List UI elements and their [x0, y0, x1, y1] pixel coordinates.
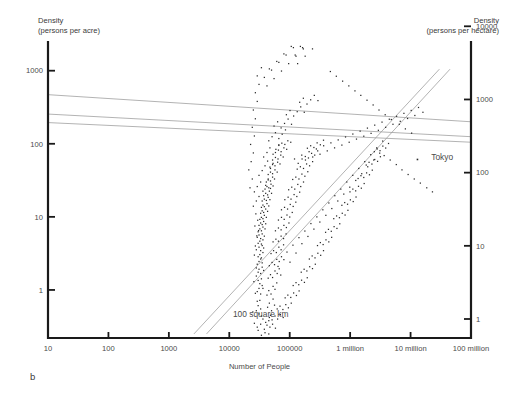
data-point — [266, 200, 267, 201]
data-point — [304, 230, 305, 231]
data-point — [259, 241, 260, 242]
data-point — [317, 100, 318, 101]
data-point — [270, 171, 271, 172]
data-point — [334, 195, 335, 196]
data-point — [414, 115, 415, 116]
data-point — [258, 261, 259, 262]
data-point — [262, 233, 263, 234]
data-point — [349, 142, 350, 143]
data-point — [283, 225, 284, 226]
data-point — [255, 213, 256, 214]
data-point — [278, 138, 279, 139]
data-point — [264, 236, 265, 237]
data-point — [258, 243, 259, 244]
data-point — [272, 154, 273, 155]
data-point — [320, 255, 321, 256]
data-point — [300, 166, 301, 167]
data-point — [346, 181, 347, 182]
data-point — [293, 292, 294, 293]
data-point — [349, 187, 350, 188]
data-point — [340, 188, 341, 189]
data-point — [372, 170, 373, 171]
data-point — [316, 216, 317, 217]
data-point — [249, 187, 250, 188]
data-point — [317, 142, 318, 143]
data-point — [284, 123, 285, 124]
data-point — [347, 204, 348, 205]
hundred-sq-km-label: 100 square km — [233, 309, 288, 319]
data-point — [287, 197, 288, 198]
data-point — [263, 270, 264, 271]
data-point — [272, 286, 273, 287]
data-point — [268, 197, 269, 198]
data-point — [298, 237, 299, 238]
x-tick-label: 1 million — [336, 344, 364, 353]
data-point — [285, 233, 286, 234]
data-point — [357, 178, 358, 179]
data-point — [349, 191, 350, 192]
data-point — [259, 254, 260, 255]
data-point — [301, 272, 302, 273]
data-point — [272, 277, 273, 278]
data-point — [345, 136, 346, 137]
data-point — [305, 159, 306, 160]
data-point — [272, 164, 273, 165]
data-point — [363, 177, 364, 178]
data-point — [283, 244, 284, 245]
data-point — [272, 185, 273, 186]
data-point — [420, 182, 421, 183]
data-point — [283, 156, 284, 157]
data-point — [252, 127, 253, 128]
data-point — [290, 204, 291, 205]
data-point — [264, 332, 265, 333]
data-point — [281, 143, 282, 144]
y-tick-label: 1000 — [26, 66, 43, 75]
data-point — [266, 295, 267, 296]
y2-tick-label: 100 — [476, 168, 489, 177]
data-point — [265, 223, 266, 224]
data-point — [366, 172, 367, 173]
x-tick-label: 100 million — [453, 344, 489, 353]
data-point — [327, 150, 328, 151]
data-point — [286, 114, 287, 115]
data-point — [262, 262, 263, 263]
data-point — [312, 161, 313, 162]
data-point — [298, 284, 299, 285]
hundred-sq-km-upper — [194, 69, 439, 334]
data-point — [298, 178, 299, 179]
axes-layer — [48, 26, 471, 338]
data-point — [257, 264, 258, 265]
data-point — [269, 68, 270, 69]
data-point — [264, 206, 265, 207]
data-point — [272, 324, 273, 325]
data-point — [328, 202, 329, 203]
data-point — [276, 282, 277, 283]
data-point — [278, 144, 279, 145]
data-point — [277, 162, 278, 163]
data-point — [378, 109, 379, 110]
data-point — [360, 131, 361, 132]
data-point — [306, 270, 307, 271]
data-point — [265, 185, 266, 186]
data-point — [256, 267, 257, 268]
data-point — [261, 243, 262, 244]
data-point — [263, 212, 264, 213]
data-point — [368, 162, 369, 163]
data-point — [261, 217, 262, 218]
data-point — [265, 193, 266, 194]
data-point — [262, 267, 263, 268]
data-point — [279, 268, 280, 269]
figure-container: 101001000100001000001 million10 million1… — [0, 0, 521, 395]
data-point — [278, 149, 279, 150]
data-point — [254, 323, 255, 324]
y-tick-label: 10 — [35, 213, 43, 222]
data-point — [274, 270, 275, 271]
data-point — [422, 112, 423, 113]
data-point — [277, 121, 278, 122]
data-point — [350, 199, 351, 200]
data-point — [270, 188, 271, 189]
data-point — [261, 67, 262, 68]
data-point — [323, 145, 324, 146]
data-point — [382, 140, 383, 141]
data-point — [271, 262, 272, 263]
